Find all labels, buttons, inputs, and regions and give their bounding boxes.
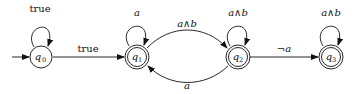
automaton-diagram: true true a a∧b a∧b a ¬a a∧b q 0 <box>0 0 355 94</box>
svg-text:1: 1 <box>138 56 142 64</box>
edge-label: true <box>29 3 50 14</box>
transition-q3-q3: a∧b <box>320 7 341 46</box>
edge-label: true <box>77 43 98 54</box>
transition-q2-q1: a <box>148 66 228 91</box>
edge-label: a∧b <box>228 7 248 18</box>
state-q1: q 1 <box>125 45 149 69</box>
edge-label: a <box>134 7 140 18</box>
state-q0: q 0 <box>30 46 52 68</box>
transition-q2-q3: ¬a <box>250 43 318 57</box>
edge-label: a <box>184 80 190 91</box>
edge-label: a∧b <box>321 7 341 18</box>
edge-label: a∧b <box>177 18 197 29</box>
edge-label: ¬a <box>277 43 291 54</box>
transition-q0-q0: true <box>29 3 50 47</box>
svg-text:3: 3 <box>332 56 336 64</box>
transition-q2-q2: a∧b <box>227 7 248 46</box>
transition-q1-q1: a <box>126 7 145 46</box>
state-q2: q 2 <box>226 45 250 69</box>
svg-text:2: 2 <box>239 56 243 64</box>
svg-text:0: 0 <box>42 56 46 64</box>
svg-text:q: q <box>35 51 41 62</box>
state-q3: q 3 <box>319 45 343 69</box>
transition-q0-q1: true <box>53 43 124 57</box>
transition-q1-q2: a∧b <box>147 18 227 48</box>
